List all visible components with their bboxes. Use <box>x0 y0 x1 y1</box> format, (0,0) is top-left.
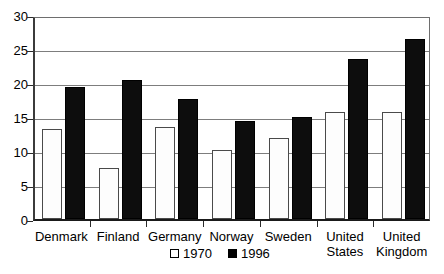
bar-1996-finland <box>122 80 142 219</box>
x-axis-category-label: Finland <box>90 229 147 244</box>
bar-1996-sweden <box>292 117 312 219</box>
bar-1970-denmark <box>42 129 62 219</box>
legend-label: 1970 <box>183 247 212 260</box>
x-axis-tick-mark <box>203 221 204 227</box>
chart-legend: 19701996 <box>170 245 270 261</box>
x-axis-category-label-line: Norway <box>203 229 260 244</box>
x-axis-category-label: Denmark <box>33 229 90 244</box>
x-axis-category-label-line: United <box>317 229 374 244</box>
bar-1970-germany <box>155 127 175 219</box>
x-axis-tick-mark <box>260 221 261 227</box>
x-axis-category-label-line: Kingdom <box>373 244 430 259</box>
filled-square-swatch <box>228 249 237 258</box>
legend-entry-1970: 1970 <box>170 247 212 260</box>
bar-1970-finland <box>99 168 119 219</box>
bar-1970-sweden <box>269 138 289 219</box>
bar-group <box>319 18 376 219</box>
x-axis-category-label: Sweden <box>260 229 317 244</box>
y-axis-tick-mark <box>27 221 33 222</box>
bar-1996-denmark <box>65 87 85 219</box>
bar-group <box>92 18 149 219</box>
bar-group <box>262 18 319 219</box>
x-axis-tick-mark <box>373 221 374 227</box>
x-axis-category-label: Norway <box>203 229 260 244</box>
bar-1970-united-kingdom <box>382 112 402 219</box>
y-axis-tick-label: 0 <box>4 214 28 227</box>
x-axis-category-label: Germany <box>146 229 203 244</box>
bar-1996-norway <box>235 121 255 219</box>
legend-label: 1996 <box>241 247 270 260</box>
x-axis-category-label-line: Denmark <box>33 229 90 244</box>
bar-1970-norway <box>212 150 232 219</box>
bar-chart: 051015202530 DenmarkFinlandGermanyNorway… <box>0 0 444 274</box>
y-axis-tick-label: 5 <box>4 180 28 193</box>
bar-1996-germany <box>178 99 198 219</box>
y-axis-tick-label: 15 <box>4 112 28 125</box>
x-axis-category-label-line: Finland <box>90 229 147 244</box>
x-axis-category-label-line: United <box>373 229 430 244</box>
y-axis-tick-mark <box>27 51 33 52</box>
y-axis-tick-label: 30 <box>4 10 28 23</box>
y-axis-tick-label: 25 <box>4 44 28 57</box>
y-axis-tick-mark <box>27 187 33 188</box>
x-axis-tick-mark <box>146 221 147 227</box>
bar-group <box>375 18 432 219</box>
x-axis-tick-mark <box>90 221 91 227</box>
x-axis-tick-mark <box>317 221 318 227</box>
bar-1996-united-states <box>348 59 368 219</box>
x-axis-category-label: UnitedKingdom <box>373 229 430 259</box>
x-axis-category-label-line: Sweden <box>260 229 317 244</box>
bar-group <box>35 18 92 219</box>
y-axis-tick-mark <box>27 119 33 120</box>
y-axis: 051015202530 <box>0 0 28 274</box>
y-axis-tick-label: 10 <box>4 146 28 159</box>
y-axis-tick-mark <box>27 17 33 18</box>
y-axis-tick-label: 20 <box>4 78 28 91</box>
plot-area <box>33 17 430 221</box>
y-axis-tick-mark <box>27 153 33 154</box>
y-axis-tick-mark <box>27 85 33 86</box>
open-square-swatch <box>170 249 179 258</box>
x-axis-category-label: UnitedStates <box>317 229 374 259</box>
x-axis-category-label-line: Germany <box>146 229 203 244</box>
bar-group <box>148 18 205 219</box>
bar-1996-united-kingdom <box>405 39 425 219</box>
bar-1970-united-states <box>325 112 345 219</box>
legend-entry-1996: 1996 <box>228 247 270 260</box>
x-axis-category-label-line: States <box>317 244 374 259</box>
bar-group <box>205 18 262 219</box>
